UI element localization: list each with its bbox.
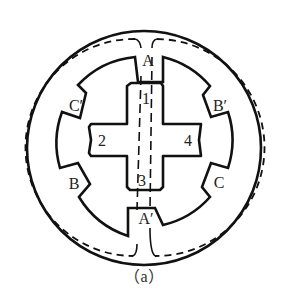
figure-caption: （a）	[124, 268, 163, 285]
flux-tail-bottom	[133, 228, 155, 256]
rotor-tooth-label-3: 3	[138, 172, 146, 189]
rotor-tooth-label-1: 1	[142, 90, 150, 107]
pole-label-c: C	[214, 174, 225, 191]
pole-label-a: A	[142, 52, 154, 69]
pole-label-a-prime: A′	[138, 210, 153, 227]
pole-label-b-prime: B′	[213, 97, 227, 114]
pole-label-c-prime: C′	[69, 97, 83, 114]
rotor-tooth-label-2: 2	[98, 132, 106, 149]
rotor-tooth-label-4: 4	[184, 132, 192, 149]
pole-label-b: B	[69, 175, 80, 192]
flux-tail-top	[135, 39, 157, 48]
stepper-motor-diagram: A B′ C A′ B C′ 1 2 4 3 （a）	[0, 0, 290, 302]
